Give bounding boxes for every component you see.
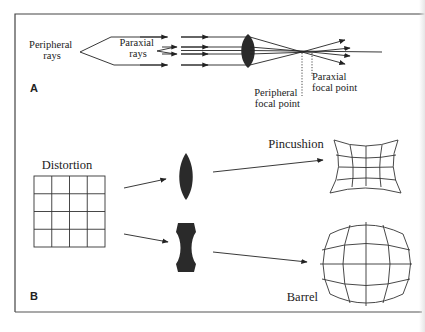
converging-lens [241, 34, 255, 68]
diverging-ray-4 [311, 52, 350, 56]
distortion-label: Distortion [42, 158, 93, 172]
panel-a: Peripheral rays Paraxial rays [29, 34, 382, 109]
barrel-grid [320, 222, 412, 306]
arrow-to-convex-lens [124, 179, 166, 188]
optics-figure: Peripheral rays Paraxial rays [0, 0, 425, 332]
paraxial-rays-label: Paraxial rays [119, 37, 156, 59]
pincushion-grid [330, 140, 401, 193]
arrow-to-pincushion [213, 160, 323, 172]
diverging-ray-2 [302, 52, 345, 64]
page-edge-shadow [419, 0, 425, 332]
panel-b: Distortion Pincushion [30, 137, 412, 306]
arrow-to-barrel [213, 252, 307, 262]
peripheral-focal-point-label: Peripheral focal point [254, 87, 300, 109]
figure-canvas: Peripheral rays Paraxial rays [0, 0, 425, 332]
paraxial-focal-point-label: Paraxial focal point [312, 71, 357, 93]
panel-b-label: B [30, 290, 38, 302]
arrow-to-concave-lens [124, 234, 168, 242]
peripheral-rays-label: Peripheral rays [29, 39, 75, 61]
convex-lens [179, 153, 193, 200]
concave-lens [176, 223, 196, 272]
barrel-label: Barrel [287, 290, 319, 304]
diverging-ray-1 [302, 40, 345, 52]
converging-ray-top [250, 37, 302, 52]
paraxial-rays-bracket [157, 47, 175, 54]
undistorted-grid [34, 176, 105, 247]
panel-a-label: A [30, 82, 38, 94]
pincushion-label: Pincushion [268, 137, 324, 151]
